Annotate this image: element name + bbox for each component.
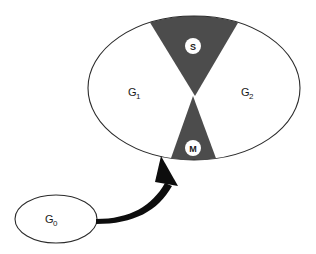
diagram-canvas: G 1 G 2 S M G 0: [0, 0, 316, 254]
phase-badge-m: M: [185, 140, 201, 156]
cell-cycle-svg: G 1 G 2 S M G 0: [0, 0, 316, 254]
phase-badge-s: S: [185, 38, 201, 54]
phase-label-g0-sub: 0: [53, 219, 58, 228]
phase-label-g1-sub: 1: [136, 92, 141, 101]
g0-to-m-arrow: [96, 156, 178, 224]
phase-badge-m-label: M: [189, 144, 197, 154]
phase-badge-s-label: S: [190, 42, 196, 52]
g0-to-m-arrow-shaft: [96, 183, 172, 224]
g0-to-m-arrow-head: [155, 156, 178, 186]
phase-label-g2-sub: 2: [249, 92, 254, 101]
